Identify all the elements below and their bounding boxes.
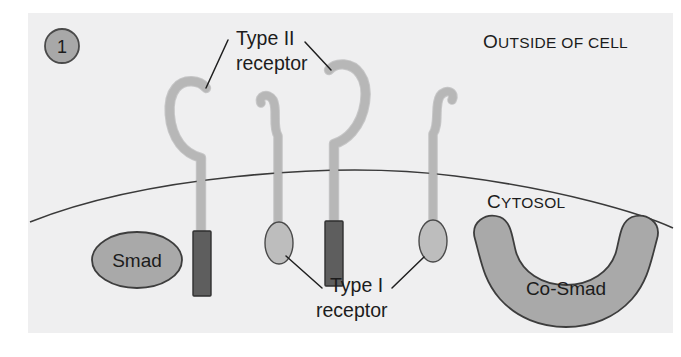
callout-type-i-line1: Type I: [330, 274, 383, 296]
compartment-cytosol-text: CYTOSOL: [487, 191, 566, 212]
callout-type-ii-line2: receptor: [236, 52, 308, 74]
compartment-outside-rest: UTSIDE OF CELL: [498, 34, 628, 51]
step-number-badge: 1: [45, 29, 79, 63]
receptor-type-ii-left-kinase-domain: [193, 231, 211, 296]
step-number-text: 1: [57, 37, 67, 57]
protein-smad-label: Smad: [112, 250, 162, 271]
receptor-type-i-right-kinase-domain: [419, 220, 447, 262]
compartment-label-cytosol: CYTOSOL: [487, 191, 566, 212]
protein-co-smad-label: Co-Smad: [526, 278, 606, 299]
callout-type-i-line2: receptor: [316, 299, 388, 321]
callout-type-ii-line1: Type II: [236, 27, 295, 49]
diagram-canvas: 1: [0, 0, 681, 357]
compartment-outside-lead: O: [483, 31, 498, 52]
compartment-cytosol-lead: C: [487, 191, 501, 212]
figure-root: 1: [0, 0, 681, 357]
compartment-outside-text: OUTSIDE OF CELL: [483, 31, 628, 52]
compartment-cytosol-rest: YTOSOL: [501, 194, 565, 211]
protein-smad: Smad: [92, 232, 182, 288]
compartment-label-outside-of-cell: OUTSIDE OF CELL: [483, 31, 628, 52]
